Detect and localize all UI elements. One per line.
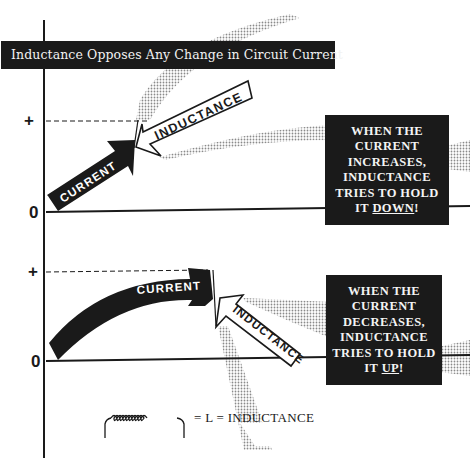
bottom-callout-line: INDUCTANCE: [340, 330, 428, 346]
top-y-zero-label: 0: [29, 204, 38, 221]
top-inductance-label: INDUCTANCE: [152, 90, 245, 143]
callout-emphasis: DOWN: [372, 201, 414, 215]
bottom-callout-box: WHEN THE CURRENT DECREASES, INDUCTANCE T…: [326, 275, 442, 385]
top-current-label: CURRENT: [58, 159, 119, 205]
legend-text: = L = INDUCTANCE: [194, 410, 314, 426]
top-callout-box: WHEN THE CURRENT INCREASES, INDUCTANCE T…: [325, 115, 449, 225]
top-callout-line: IT DOWN!: [355, 201, 419, 217]
bottom-callout-line: TRIES TO HOLD: [332, 346, 435, 362]
bottom-plus-level-line: [46, 270, 208, 272]
top-callout-line: WHEN THE: [351, 124, 423, 140]
bottom-y-plus-label: +: [28, 263, 38, 280]
inductance-diagram: INDUCTANCE CURRENT INDUCTANCE CURRENT In…: [0, 0, 472, 472]
top-callout-line: INDUCTANCE: [343, 170, 431, 186]
diagram-title: Inductance Opposes Any Change in Circuit…: [1, 41, 335, 69]
callout-text: !: [399, 361, 404, 375]
diagram-graphics: INDUCTANCE CURRENT INDUCTANCE CURRENT: [0, 0, 472, 472]
callout-emphasis: UP: [382, 361, 399, 375]
top-callout-line: TRIES TO HOLD: [335, 186, 438, 202]
top-y-plus-label: +: [24, 112, 34, 129]
callout-text: IT: [364, 361, 381, 375]
bottom-y-zero-label: 0: [31, 353, 40, 370]
callout-text: !: [414, 201, 419, 215]
bottom-callout-line: IT UP!: [364, 361, 403, 377]
top-callout-line: INCREASES,: [348, 155, 427, 171]
callout-text: IT: [355, 201, 372, 215]
coil-inductor-symbol: [105, 416, 184, 439]
bottom-callout-line: WHEN THE: [348, 284, 420, 300]
bottom-callout-line: DECREASES,: [343, 315, 425, 331]
top-callout-line: CURRENT: [355, 139, 420, 155]
bottom-callout-line: CURRENT: [352, 299, 417, 315]
